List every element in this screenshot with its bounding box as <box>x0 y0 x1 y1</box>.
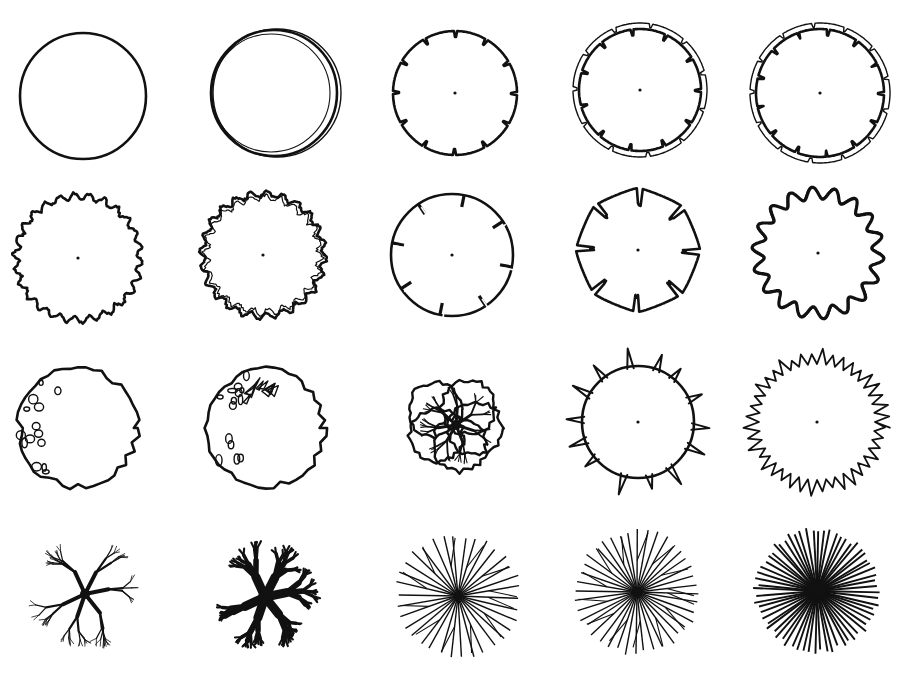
tree-symbol-bare-branch-heavy <box>217 541 320 648</box>
tree-symbol-lobed-cracked-circle <box>576 188 700 312</box>
tree-symbol-branching-clumps <box>408 380 504 474</box>
tree-symbol-irregular-with-leaf-spots <box>16 367 139 489</box>
tree-symbol-double-notched-circle <box>573 23 707 157</box>
tree-symbol-double-offset-circle <box>211 29 341 157</box>
tree-symbols-canvas <box>0 0 906 676</box>
tree-symbol-double-notched-ring-wide <box>750 23 890 163</box>
tree-symbol-dense-radiating-lines <box>753 528 879 654</box>
tree-symbol-plain-circle <box>20 33 146 159</box>
tree-symbol-bare-branch-thin <box>29 544 138 648</box>
tree-symbol-scalloped-circle <box>751 186 885 319</box>
tree-symbol-rough-double-wavy-circle <box>199 191 327 320</box>
tree-symbol-radiating-twigs <box>396 536 519 657</box>
tree-symbol-slotted-circle <box>391 194 515 318</box>
tree-symbol-irregular-with-branch-cluster <box>205 367 328 489</box>
tree-symbol-spiked-circle-sparse <box>567 349 710 495</box>
tree-symbol-radiating-lines-star <box>575 529 699 655</box>
tree-symbol-wavy-edge-circle <box>12 192 142 323</box>
tree-symbol-notched-circle <box>393 31 517 155</box>
tree-symbol-spiky-fringe-circle <box>744 349 890 496</box>
tree-symbol-sheet <box>0 0 906 676</box>
